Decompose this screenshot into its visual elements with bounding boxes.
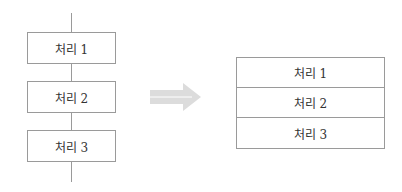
sequence-label: 처리 2 (294, 94, 327, 111)
sequence-row-1: 처리 1 (237, 58, 384, 88)
right-arrow-icon (148, 82, 202, 112)
sequence-row-2: 처리 2 (237, 88, 384, 118)
process-box-3: 처리 3 (27, 130, 116, 162)
sequence-label: 처리 3 (294, 125, 327, 142)
process-label: 처리 1 (55, 40, 88, 57)
process-label: 처리 2 (55, 89, 88, 106)
process-label: 처리 3 (55, 138, 88, 155)
sequence-label: 처리 1 (294, 64, 327, 81)
sequence-block-right: 처리 1 처리 2 처리 3 (236, 57, 385, 149)
process-box-1: 처리 1 (27, 32, 116, 64)
process-box-2: 처리 2 (27, 81, 116, 113)
sequence-row-3: 처리 3 (237, 118, 384, 148)
